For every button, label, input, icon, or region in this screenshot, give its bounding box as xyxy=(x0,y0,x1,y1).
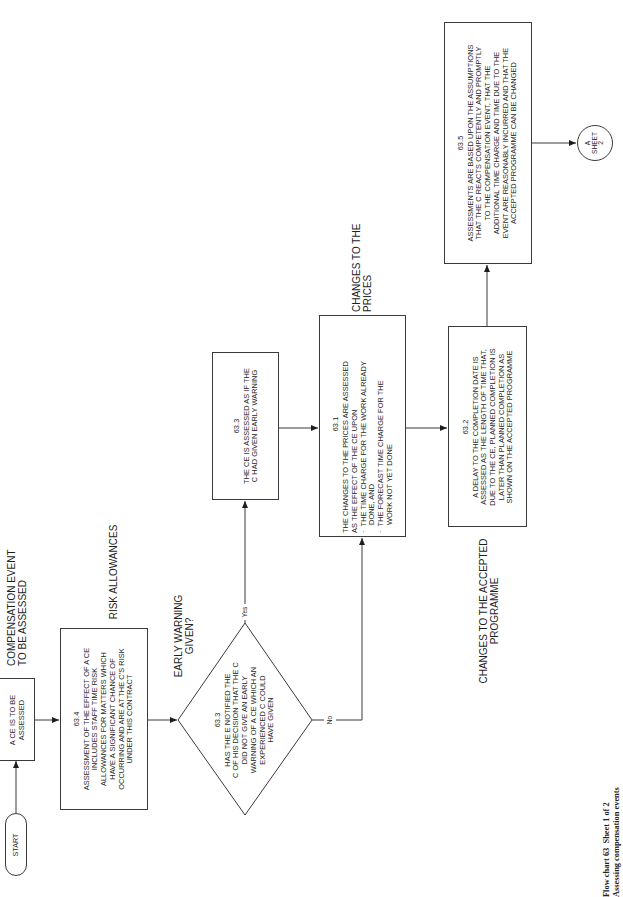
yes-label: Yes xyxy=(239,604,251,620)
annotation-programme-line-1: CHANGES TO THE ACCEPTED xyxy=(478,538,490,683)
annotation-prices-line-1: CHANGES TO THE xyxy=(351,224,363,312)
connector-line: 2 xyxy=(598,141,605,145)
figure-caption: Flow chart 63 Sheet 1 of 2 Assessing com… xyxy=(602,757,623,897)
box-63-4-line: UNDER THIS CONTRACT xyxy=(126,674,135,763)
caption-subtitle: Assessing compensation events xyxy=(612,787,622,897)
annotation-compensation-line-1: COMPENSATION EVENT xyxy=(6,550,18,667)
bullet-dot: · xyxy=(358,530,367,533)
decision-63-3: 63.3 HAS THE E NOTIFIED THE C OF HIS DEC… xyxy=(198,655,292,785)
decision-number: 63.3 xyxy=(214,713,223,728)
box-63-2-number: 63.2 xyxy=(461,419,470,434)
yes-label-text: Yes xyxy=(241,607,249,618)
no-label-text: No xyxy=(326,716,334,724)
box-63-3: 63.3 THE CE IS ASSESSED AS IF THE C HAD … xyxy=(212,352,279,500)
box-63-2-line: SHOWN ON THE ACCEPTED PROGRAMME xyxy=(505,350,514,503)
box-63-1-number: 63.1 xyxy=(331,417,340,432)
annotation-prices-line-2: PRICES xyxy=(362,275,374,312)
annotation-risk-allowances: RISK ALLOWANCES xyxy=(106,520,122,624)
bullet-dot: · xyxy=(375,530,384,533)
annotation-early-warning-line-2: GIVEN? xyxy=(184,618,196,655)
annotation-risk-line: RISK ALLOWANCES xyxy=(108,525,120,620)
annotation-changes-prices: CHANGES TO THE PRICES xyxy=(349,216,375,312)
annotation-early-warning: EARLY WARNING GIVEN? xyxy=(170,590,198,682)
caption-title: Flow chart 63 Sheet 1 of 2 xyxy=(602,802,612,897)
box-63-2-line: DUE TO THE CE, PLANNED COMPLETION IS xyxy=(488,348,497,505)
ce-to-be-assessed-box: A CE IS TO BE ASSESSED xyxy=(0,678,35,761)
annotation-changes-programme: CHANGES TO THE ACCEPTED PROGRAMME xyxy=(475,532,503,690)
box-63-1: 63.1 THE CHANGES TO THE PRICES ARE ASSES… xyxy=(319,315,406,537)
flowchart-63-sheet-1: START A CE IS TO BE ASSESSED COMPENSATIO… xyxy=(0,0,623,897)
box-63-3-number: 63.3 xyxy=(232,419,241,434)
annotation-programme-line-2: PROGRAMME xyxy=(489,578,501,645)
box-63-5: 63.5 ASSESSMENTS ARE BASED UPON THE ASSU… xyxy=(444,22,532,264)
box-63-5-number: 63.5 xyxy=(457,136,466,151)
annotation-compensation-line-2: TO BE ASSESSED xyxy=(17,580,29,666)
box-63-3-line: C HAD GIVEN EARLY WARNING xyxy=(250,370,259,482)
start-label: START xyxy=(12,833,20,856)
box-63-2: 63.2 A DELAY TO THE COMPLETION DATE IS A… xyxy=(448,326,527,527)
arrow-no-to-63-1 xyxy=(312,538,362,720)
annotation-early-warning-line-1: EARLY WARNING xyxy=(173,595,185,678)
annotation-compensation-event: COMPENSATION EVENT TO BE ASSESSED xyxy=(4,540,30,666)
box-63-4-number: 63.4 xyxy=(73,712,82,727)
decision-line: HAVE GIVEN xyxy=(267,697,276,742)
box-63-1-bullet-cont: WORK NOT YET DONE xyxy=(385,444,394,533)
bullet-line: THE TIME CHARGE FOR THE WORK ALREADY xyxy=(358,361,367,526)
start-terminator: START xyxy=(5,813,27,876)
box-63-4: 63.4 ASSESSMENT OF THE EFFECT OF A CE IN… xyxy=(60,628,148,810)
box-63-5-line: ACCEPTED PROGRAMME CAN BE CHANGED xyxy=(510,62,519,224)
no-label: No xyxy=(324,714,336,726)
ce-line-2: ASSESSED xyxy=(17,699,26,739)
bullet-line: THE FORECAST TIME CHARGE FOR THE xyxy=(375,380,384,526)
connector-sheet-2[interactable]: A SHEET 2 xyxy=(577,125,613,161)
